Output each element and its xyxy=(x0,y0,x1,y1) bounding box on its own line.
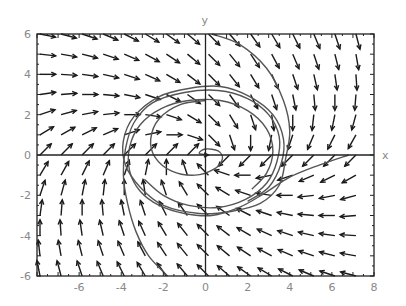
field-arrow xyxy=(82,144,93,155)
field-arrow xyxy=(177,244,187,256)
field-arrow xyxy=(187,34,199,44)
field-arrow xyxy=(197,265,208,276)
x-tick-label: -2 xyxy=(158,281,169,294)
field-arrow xyxy=(230,74,240,86)
field-arrow xyxy=(345,155,356,166)
x-axis-label: x xyxy=(382,149,389,162)
y-tick-label: 0 xyxy=(24,149,31,162)
y-tick-label: -6 xyxy=(20,270,31,283)
x-tick-label: -4 xyxy=(116,281,127,294)
field-arrow xyxy=(103,144,114,155)
field-arrow xyxy=(218,266,230,276)
field-arrow xyxy=(209,135,220,146)
y-tick-label: 2 xyxy=(24,109,31,122)
x-tick-label: 8 xyxy=(371,281,378,294)
field-arrow xyxy=(187,74,199,84)
field-arrow xyxy=(217,246,229,256)
field-arrow xyxy=(197,184,208,195)
field-arrow xyxy=(40,144,51,155)
x-tick-label: -6 xyxy=(74,281,85,294)
x-tick-label: 6 xyxy=(328,281,335,294)
axis-ticks: -6-4-202468-6-4-20246 xyxy=(20,28,377,294)
field-arrow xyxy=(230,54,240,66)
field-arrow xyxy=(187,144,198,155)
field-arrow xyxy=(209,74,220,85)
field-arrow xyxy=(197,245,208,256)
field-arrow xyxy=(61,144,72,155)
x-tick-label: 4 xyxy=(286,281,293,294)
field-arrow xyxy=(209,54,220,65)
y-axis-label: y xyxy=(202,14,209,27)
field-arrow xyxy=(177,264,187,276)
field-arrow xyxy=(209,115,220,126)
vector-field-plot: -6-4-202468-6-4-20246 x y xyxy=(0,0,406,306)
x-tick-label: 2 xyxy=(244,281,251,294)
y-tick-label: 4 xyxy=(24,68,31,81)
y-tick-label: 6 xyxy=(24,28,31,41)
field-arrow xyxy=(178,223,188,235)
y-tick-label: -2 xyxy=(20,189,31,202)
field-arrow xyxy=(197,224,208,235)
y-tick-label: -4 xyxy=(20,230,31,243)
x-tick-label: 0 xyxy=(202,281,209,294)
field-arrow xyxy=(187,54,199,64)
trajectory-from-top xyxy=(123,34,290,214)
field-arrow xyxy=(303,155,314,166)
field-arrow xyxy=(239,155,250,166)
field-arrow xyxy=(166,144,177,155)
field-arrow xyxy=(217,226,229,236)
